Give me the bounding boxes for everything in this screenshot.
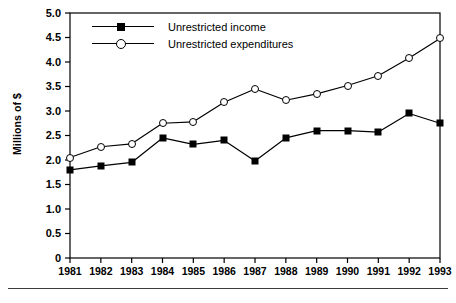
legend-item-unrestricted-income: Unrestricted income	[92, 18, 293, 35]
legend-swatch-line-circle	[92, 38, 154, 50]
data-point-marker	[282, 96, 290, 104]
data-point-marker	[405, 54, 413, 62]
data-point-marker	[221, 137, 228, 144]
data-point-marker	[374, 72, 382, 80]
data-point-marker	[313, 127, 320, 134]
data-point-marker	[251, 85, 259, 93]
data-point-marker	[190, 141, 197, 148]
data-point-marker	[97, 143, 105, 151]
data-point-marker	[128, 159, 135, 166]
chart-figure: Millions of $ 00.51.01.52.02.53.03.54.04…	[0, 0, 456, 303]
data-point-marker	[67, 166, 74, 173]
data-point-marker	[189, 118, 197, 126]
data-point-marker	[97, 162, 104, 169]
filled-square-icon	[117, 23, 125, 31]
legend-label-income: Unrestricted income	[168, 21, 266, 33]
legend-item-unrestricted-expenditures: Unrestricted expenditures	[92, 35, 293, 52]
data-point-marker	[128, 140, 136, 148]
data-point-marker	[159, 119, 167, 127]
data-point-marker	[344, 127, 351, 134]
data-point-marker	[375, 129, 382, 136]
footer-rule	[8, 288, 448, 289]
open-circle-icon	[116, 39, 126, 49]
data-point-marker	[282, 134, 289, 141]
data-point-marker	[159, 134, 166, 141]
data-point-marker	[313, 90, 321, 98]
legend-label-expenditures: Unrestricted expenditures	[168, 38, 293, 50]
data-point-marker	[436, 34, 444, 42]
data-point-marker	[252, 157, 259, 164]
data-point-marker	[437, 120, 444, 127]
legend-swatch-line-square	[92, 21, 154, 33]
data-point-marker	[66, 154, 74, 162]
data-point-marker	[344, 82, 352, 90]
data-point-marker	[220, 98, 228, 106]
chart-legend: Unrestricted income Unrestricted expendi…	[92, 18, 293, 52]
data-point-marker	[406, 110, 413, 117]
